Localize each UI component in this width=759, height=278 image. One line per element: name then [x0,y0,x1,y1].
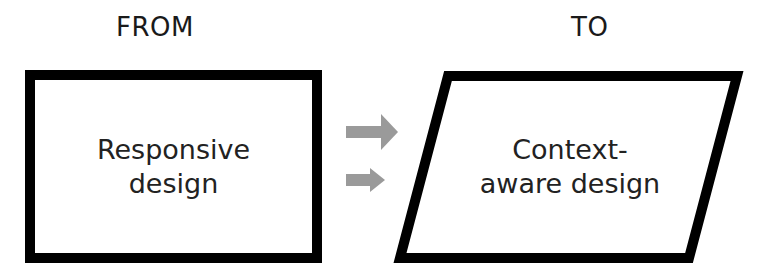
from-box-line1: Responsive [30,133,317,167]
to-box-line1: Context- [425,133,715,167]
arrow-right-icon [346,168,385,192]
from-box-text: Responsive design [30,133,317,201]
to-box-line2: aware design [425,167,715,201]
to-box-text: Context- aware design [425,133,715,201]
arrow-right-icon [346,114,398,150]
from-box-line2: design [30,167,317,201]
